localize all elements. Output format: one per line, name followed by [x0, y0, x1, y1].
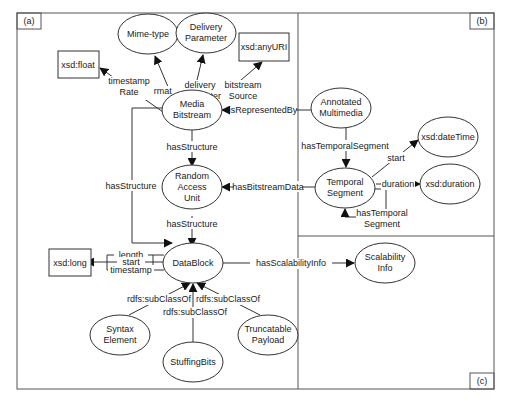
label-subclass-syntax: rdfs:subClassOf: [127, 294, 192, 304]
node-label: Element: [103, 335, 137, 345]
node-media-bitstream: Media Bitstream: [162, 90, 222, 130]
node-xsd-float: xsd:float: [58, 51, 99, 78]
label-has-structure-2: hasStructure: [166, 219, 217, 229]
label-source: Source: [229, 91, 258, 101]
node-label: StuffingBits: [170, 357, 216, 367]
ontology-diagram: (a) (b) (c) format deli: [0, 0, 505, 404]
label-subclass-truncatable: rdfs:subClassOf: [196, 294, 261, 304]
label-has-structure-1: hasStructure: [166, 142, 217, 152]
label-timestamp: timestamp: [108, 76, 150, 86]
node-label: Temporal: [326, 177, 363, 187]
label-start-datetime: start: [387, 153, 405, 163]
label-delivery: delivery: [184, 80, 216, 90]
node-label: Unit: [184, 193, 201, 203]
node-truncatable-payload: Truncatable Payload: [238, 315, 298, 355]
node-label: Bitstream: [173, 110, 211, 120]
node-label: Parameter: [185, 33, 227, 43]
node-random-access-unit: Random Access Unit: [162, 165, 222, 209]
node-scalability-info: Scalability Info: [355, 243, 415, 283]
label-rate: Rate: [119, 87, 138, 97]
node-label: xsd:long: [53, 258, 87, 268]
node-syntax-element: Syntax Element: [90, 315, 150, 355]
node-temporal-segment: Temporal Segment: [315, 168, 375, 208]
label-has-temporal: hasTemporal: [356, 208, 408, 218]
panel-tag-c: (c): [470, 373, 494, 389]
node-delivery-parameter: Delivery Parameter: [176, 13, 236, 53]
label-has-bitstream-data: hasBitstreamData: [232, 182, 304, 192]
label-bitstream: bitstream: [224, 80, 261, 90]
node-label: Delivery: [190, 22, 223, 32]
node-mime-type: Mime-type: [118, 14, 178, 54]
node-label: Payload: [252, 335, 285, 345]
label-has-temporal-segment: hasTemporalSegment: [301, 141, 389, 151]
node-label: Scalability: [365, 252, 406, 262]
label-subclass-stuffing: rdfs:subClassOf: [163, 307, 228, 317]
node-xsd-long: xsd:long: [49, 249, 91, 276]
node-label: xsd:duration: [425, 179, 474, 189]
node-label: Syntax: [106, 324, 134, 334]
label-has-structure-3: hasStructure: [105, 181, 156, 191]
node-label: Random: [175, 171, 209, 181]
node-label: Mime-type: [127, 29, 169, 39]
node-label: Access: [177, 182, 207, 192]
label-has-scalability-info: hasScalabilityInfo: [256, 258, 326, 268]
panel-label-c: (c): [477, 376, 488, 386]
node-label: Annotated: [320, 97, 361, 107]
panel-tag-b: (b): [470, 13, 494, 29]
label-is-represented-by: isRepresentedBy: [229, 105, 298, 115]
label-timestamp-long: timestamp: [110, 265, 152, 275]
node-datablock: DataBlock: [163, 243, 223, 283]
node-label: Segment: [327, 188, 364, 198]
node-label: xsd:anyURI: [241, 42, 288, 52]
node-label: DataBlock: [172, 258, 214, 268]
node-xsd-duration: xsd:duration: [420, 164, 480, 204]
label-duration: duration: [382, 179, 415, 189]
node-label: Multimedia: [319, 108, 363, 118]
node-label: Truncatable: [244, 324, 291, 334]
label-segment: Segment: [364, 219, 401, 229]
node-annotated-multimedia: Annotated Multimedia: [311, 88, 371, 128]
node-label: xsd:float: [61, 60, 95, 70]
node-label: Info: [377, 263, 392, 273]
node-stuffing-bits: StuffingBits: [163, 342, 223, 382]
node-xsd-anyuri: xsd:anyURI: [239, 33, 289, 61]
node-xsd-datetime: xsd:dateTime: [418, 117, 478, 157]
panel-label-a: (a): [24, 16, 35, 26]
panel-tag-a: (a): [17, 13, 41, 29]
node-label: xsd:dateTime: [421, 132, 475, 142]
node-label: Media: [180, 99, 205, 109]
panel-label-b: (b): [477, 16, 488, 26]
